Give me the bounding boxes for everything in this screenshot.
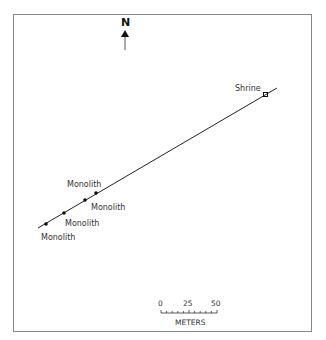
map-drawing: [0, 0, 326, 340]
scale-unit: METERS: [175, 318, 206, 327]
north-arrow-icon: [121, 30, 129, 50]
monolith-marker: [44, 222, 48, 226]
scale-bar: [161, 310, 217, 313]
monolith-label: Monolith: [41, 233, 75, 242]
scale-tick-25: 25: [183, 299, 193, 308]
scale-tick-0: 0: [158, 299, 163, 308]
monolith-marker: [83, 198, 87, 202]
monolith-label: Monolith: [91, 203, 125, 212]
monolith-label: Monolith: [65, 219, 99, 228]
scale-tick-50: 50: [211, 299, 221, 308]
shrine-label: Shrine: [235, 84, 261, 93]
monolith-label: Monolith: [67, 180, 101, 189]
monolith-marker: [62, 211, 66, 215]
alignment-line: [38, 88, 277, 228]
monolith-marker: [94, 191, 98, 195]
